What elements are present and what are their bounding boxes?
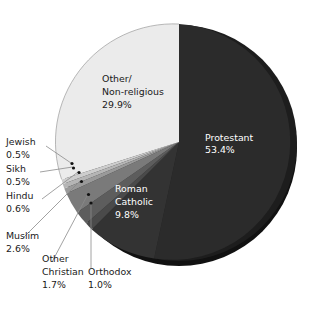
- leader-dot-orthodox: [89, 201, 92, 204]
- label-sikh-value: 0.5%: [6, 176, 30, 187]
- label-other-christian-value: 1.7%: [42, 279, 66, 290]
- label-muslim-name: Muslim: [6, 230, 39, 241]
- label-sikh-name: Sikh: [6, 163, 26, 174]
- label-roman-catholic-line1: Roman: [115, 183, 148, 194]
- label-other-nonreligious-value: 29.9%: [102, 99, 132, 110]
- label-hindu-name: Hindu: [6, 190, 34, 201]
- label-jewish-name: Jewish: [5, 136, 36, 147]
- pie-chart-svg: Protestant 53.4% Other/ Non-religious 29…: [0, 0, 310, 314]
- label-orthodox-name: Orthodox: [88, 266, 132, 277]
- label-jewish-value: 0.5%: [6, 149, 30, 160]
- label-roman-catholic-value: 9.8%: [115, 209, 139, 220]
- leader-dot-jewish: [70, 162, 73, 165]
- leader-dot-muslim: [80, 180, 83, 183]
- label-other-christian: Other Christian 1.7%: [42, 253, 84, 290]
- label-protestant-value: 53.4%: [205, 144, 235, 155]
- label-other-christian-line2: Christian: [42, 266, 84, 277]
- label-sikh: Sikh 0.5%: [6, 163, 30, 187]
- pie-chart-figure: Protestant 53.4% Other/ Non-religious 29…: [0, 0, 310, 314]
- label-muslim: Muslim 2.6%: [6, 230, 39, 254]
- label-other-nonreligious-line1: Other/: [102, 73, 133, 84]
- leader-dot-sikh: [72, 166, 75, 169]
- label-hindu: Hindu 0.6%: [6, 190, 34, 214]
- label-muslim-value: 2.6%: [6, 243, 30, 254]
- leader-dot-other-christian: [87, 193, 90, 196]
- leader-line-other-christian: [52, 194, 88, 262]
- label-hindu-value: 0.6%: [6, 203, 30, 214]
- leader-dot-hindu: [77, 171, 80, 174]
- label-protestant-name: Protestant: [205, 132, 254, 143]
- label-other-nonreligious-line2: Non-religious: [102, 86, 164, 97]
- label-orthodox-value: 1.0%: [88, 279, 112, 290]
- label-orthodox: Orthodox 1.0%: [88, 266, 132, 290]
- label-jewish: Jewish 0.5%: [5, 136, 36, 160]
- label-other-christian-line1: Other: [42, 253, 69, 264]
- label-roman-catholic-line2: Catholic: [115, 196, 153, 207]
